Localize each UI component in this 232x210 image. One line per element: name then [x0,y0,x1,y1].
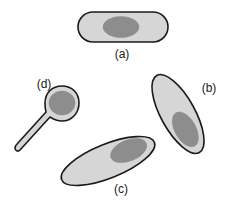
shape-label-d: (d) [37,77,52,91]
cell-morphology-diagram: (a) (b) (c) (d) [0,0,232,210]
shape-label-a: (a) [115,47,130,61]
figure-container: (a) (b) (c) (d) [0,0,232,210]
cell-shape-d [15,86,79,151]
shape-label-b: (b) [202,81,217,95]
cell-shape-c [55,127,160,196]
shape-label-c: (c) [114,182,128,196]
cell-shape-a [78,12,168,42]
cell-d-nucleus [49,91,75,115]
cell-a-nucleus [103,17,139,38]
cell-c-body [55,127,160,196]
